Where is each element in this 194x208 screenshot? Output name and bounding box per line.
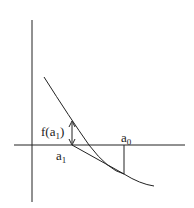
label-a1: a1 <box>56 149 66 165</box>
newton-method-diagram <box>0 0 194 208</box>
label-f-a1: f(a1) <box>41 125 64 141</box>
tangent-line <box>72 145 124 174</box>
label-a0: a0 <box>121 131 131 147</box>
